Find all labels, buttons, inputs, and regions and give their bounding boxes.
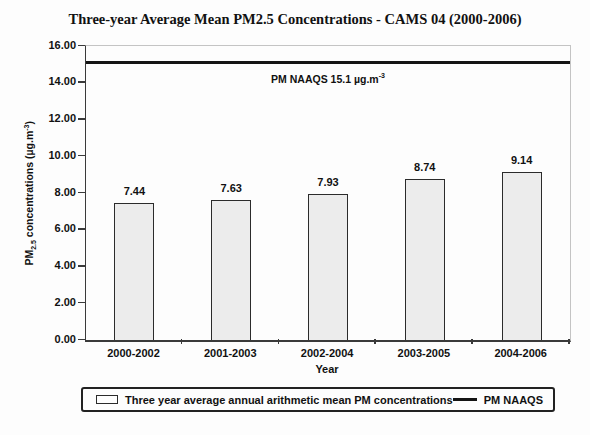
y-tick-mark (78, 45, 85, 47)
x-tick-mark (471, 339, 473, 344)
bar-2001-2003 (211, 200, 251, 340)
x-tick-mark (278, 339, 280, 344)
x-tick-mark (181, 339, 183, 344)
legend-item-naaqs: PM NAAQS (453, 394, 543, 406)
x-tick-label: 2001-2003 (182, 347, 279, 359)
y-tick-mark (78, 302, 85, 304)
y-tick-mark (78, 228, 85, 230)
y-axis-title-superscript: -3 (23, 125, 30, 131)
chart-title: Three-year Average Mean PM2.5 Concentrat… (0, 11, 590, 28)
plot-area: 7.447.637.938.749.14 PM NAAQS 15.1 µg.m-… (85, 45, 571, 342)
legend: Three year average annual arithmetic mea… (81, 387, 555, 412)
bar-value-label: 7.63 (201, 182, 261, 194)
y-tick-mark (78, 339, 85, 341)
y-tick-mark (78, 81, 85, 83)
y-tick-label: 4.00 (0, 259, 76, 272)
y-tick-label: 8.00 (0, 186, 76, 199)
naaqs-label-superscript: -3 (379, 72, 385, 79)
bar-value-label: 7.93 (298, 176, 358, 188)
y-tick-label: 16.00 (0, 39, 76, 52)
legend-naaqs-label: PM NAAQS (484, 394, 543, 406)
bar-swatch-icon (96, 395, 118, 404)
y-axis-title-subscript: 2.5 (30, 240, 37, 250)
bar-value-label: 8.74 (395, 161, 455, 173)
x-tick-label: 2004-2006 (472, 347, 569, 359)
bar-2000-2002 (114, 203, 154, 340)
y-tick-mark (78, 118, 85, 120)
x-tick-label: 2003-2005 (375, 347, 472, 359)
line-swatch-icon (453, 398, 477, 401)
y-tick-label: 6.00 (0, 222, 76, 235)
bar-2004-2006 (502, 172, 542, 340)
y-tick-label: 2.00 (0, 296, 76, 309)
bar-value-label: 7.44 (104, 185, 164, 197)
x-tick-label: 2000-2002 (85, 347, 182, 359)
bar-2002-2004 (308, 194, 348, 340)
y-tick-label: 14.00 (0, 75, 76, 88)
legend-bars-label: Three year average annual arithmetic mea… (125, 394, 453, 406)
naaqs-label-text: PM NAAQS 15.1 µg.m (271, 72, 379, 84)
y-tick-label: 12.00 (0, 112, 76, 125)
bar-value-label: 9.14 (492, 154, 552, 166)
y-tick-mark (78, 192, 85, 194)
naaqs-line-label: PM NAAQS 15.1 µg.m-3 (86, 72, 570, 85)
x-tick-mark (374, 339, 376, 344)
pm25-bar-chart: Three-year Average Mean PM2.5 Concentrat… (0, 0, 590, 435)
x-tick-mark (568, 339, 570, 344)
x-tick-label: 2002-2004 (279, 347, 376, 359)
y-tick-label: 10.00 (0, 149, 76, 162)
legend-item-bars: Three year average annual arithmetic mea… (96, 394, 453, 406)
y-tick-mark (78, 265, 85, 267)
bar-2003-2005 (405, 179, 445, 340)
naaqs-reference-line (86, 61, 570, 64)
y-tick-label: 0.00 (0, 333, 76, 346)
y-tick-mark (78, 155, 85, 157)
x-axis-title: Year (85, 363, 569, 375)
